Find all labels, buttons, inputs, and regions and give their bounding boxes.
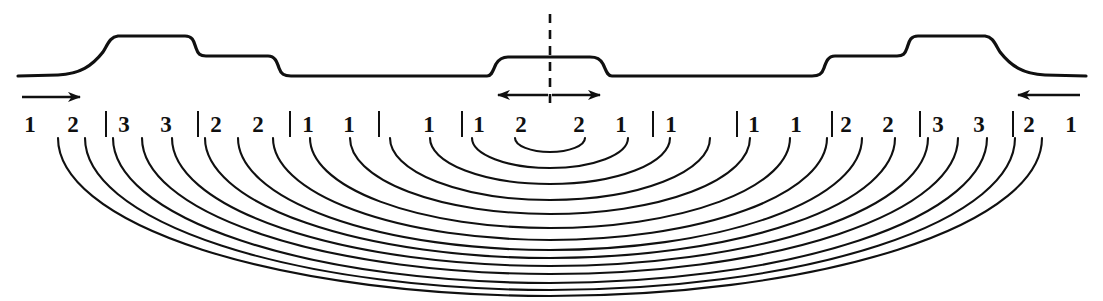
zone-label: 2: [515, 113, 527, 136]
zone-label: 2: [840, 113, 852, 136]
zone-label: 2: [573, 113, 585, 136]
zone-label: 1: [24, 113, 36, 136]
zone-label: 1: [302, 113, 314, 136]
wavefront-arc: [238, 138, 862, 250]
wavefront-arc: [273, 138, 827, 240]
zone-label: 3: [973, 113, 985, 136]
zone-divider-tick: [652, 111, 654, 137]
zone-divider-tick: [831, 111, 833, 137]
zone-label: 1: [665, 113, 677, 136]
terrain-profile-group: [18, 36, 1086, 76]
zone-label: 3: [160, 113, 172, 136]
zone-divider-tick: [289, 111, 291, 137]
zone-label: 2: [1023, 113, 1035, 136]
diagram-canvas: [0, 0, 1103, 301]
zone-divider-tick: [461, 111, 463, 137]
wavefront-arc: [515, 138, 585, 152]
zone-label: 1: [1065, 113, 1077, 136]
wavefront-profile-diagram: 1233221111221111223321: [0, 0, 1103, 301]
zone-divider-tick: [919, 111, 921, 137]
zone-label: 3: [118, 113, 130, 136]
zone-divider-tick: [736, 111, 738, 137]
wavefront-arc: [172, 138, 928, 266]
terrain-profile-path: [18, 36, 1086, 76]
zone-label: 2: [252, 113, 264, 136]
wavefront-arc: [58, 138, 1042, 296]
zone-label: 3: [932, 113, 944, 136]
zone-label: 2: [210, 113, 222, 136]
zone-label: 1: [343, 113, 355, 136]
zone-label: 1: [473, 113, 485, 136]
zone-label: 1: [615, 113, 627, 136]
zone-label: 1: [790, 113, 802, 136]
wavefront-arc: [430, 138, 670, 184]
zone-divider-tick: [105, 111, 107, 137]
zone-label: 1: [748, 113, 760, 136]
zone-label: 2: [882, 113, 894, 136]
zone-divider-tick: [378, 111, 380, 137]
nested-wavefront-arcs: [58, 138, 1042, 296]
zone-divider-tick: [197, 111, 199, 137]
zone-label: 2: [67, 113, 79, 136]
zone-label: 1: [423, 113, 435, 136]
wavefront-arc: [350, 138, 750, 214]
zone-divider-tick: [1012, 111, 1014, 137]
